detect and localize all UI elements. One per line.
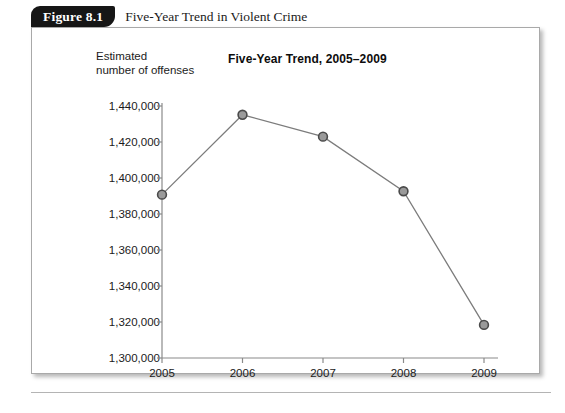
chart-panel: Estimated number of offenses Five-Year T… [31,27,540,374]
figure-caption: Five-Year Trend in Violent Crime [115,6,307,28]
data-point-marker [399,187,408,196]
chart-area: Estimated number of offenses Five-Year T… [32,28,541,375]
figure-number-tab: Figure 8.1 [31,6,115,27]
data-series [158,110,489,329]
series-line [162,115,484,325]
line-plot [32,28,541,375]
data-point-marker [238,110,247,119]
data-point-marker [319,132,328,141]
data-point-marker [480,320,489,329]
figure-header: Figure 8.1 Five-Year Trend in Violent Cr… [31,6,307,28]
plot-axes [157,103,498,363]
data-point-marker [158,190,167,199]
page-divider-rule [31,392,551,393]
